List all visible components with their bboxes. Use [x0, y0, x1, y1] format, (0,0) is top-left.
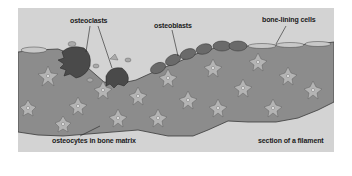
- label-osteoblasts: osteoblasts: [154, 22, 192, 29]
- bone-diagram: osteoclasts osteoblasts bone-lining cell…: [18, 8, 334, 152]
- label-bone-lining-cells: bone-lining cells: [262, 16, 316, 23]
- bone-section-illustration: [18, 8, 334, 152]
- label-osteoclasts: osteoclasts: [70, 17, 107, 24]
- label-caption: section of a filament: [258, 137, 324, 144]
- label-osteocytes: osteocytes in bone matrix: [52, 137, 136, 144]
